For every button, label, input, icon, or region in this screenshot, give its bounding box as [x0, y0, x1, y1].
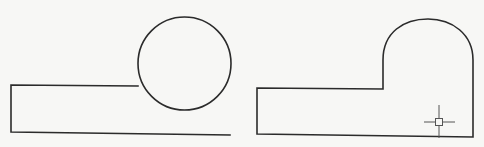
- open-polyline: [11, 85, 230, 135]
- cad-canvas[interactable]: [0, 0, 484, 147]
- circle-shape: [138, 17, 231, 110]
- left-figure: [11, 17, 231, 135]
- pickbox: [436, 119, 443, 126]
- crosshair-pickbox-icon: [424, 105, 455, 138]
- right-figure: [257, 19, 473, 137]
- joined-outline: [257, 19, 473, 137]
